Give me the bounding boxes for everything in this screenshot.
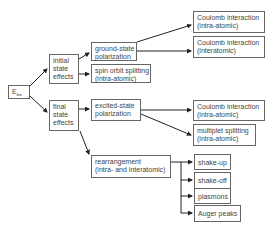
- plasmons-node: plasmons: [194, 188, 231, 204]
- excited-state-polarization-node: excited-state polarization: [91, 99, 141, 121]
- line: (interatomic): [197, 47, 261, 55]
- label: shake-up: [198, 159, 227, 167]
- line: polarization: [95, 110, 137, 118]
- coulomb-interatomic-node: Coulomb interaction (interatomic): [193, 36, 265, 58]
- coulomb-intra-atomic-node-2: Coulomb interaction (intra-atomic): [193, 100, 265, 121]
- line: final: [53, 103, 75, 111]
- line: effects: [53, 73, 75, 81]
- ebin-label: Ebin: [12, 88, 26, 99]
- line: ground-state: [95, 45, 133, 53]
- rearrangement-node: rearrangement (intra- and interatomic): [91, 155, 171, 178]
- diagram-canvas: Ebin initial state effects final state e…: [0, 0, 274, 225]
- initial-state-effects-node: initial state effects: [49, 54, 79, 84]
- line: multiplet splitting: [197, 127, 252, 135]
- line: polarization: [95, 53, 133, 61]
- multiplet-splitting-node: multiplet splitting (intra-atomic): [193, 124, 256, 146]
- line: (intra-atomic): [197, 22, 261, 30]
- line: Coulomb interaction: [197, 39, 261, 47]
- line: rearrangement: [95, 158, 167, 166]
- line: state: [53, 65, 75, 73]
- line: initial: [53, 57, 75, 65]
- line: spin orbit splitting: [95, 67, 147, 75]
- shake-off-node: shake-off: [194, 172, 231, 189]
- ebin-node: Ebin: [8, 85, 30, 99]
- label: shake-off: [198, 177, 227, 185]
- line: (intra-atomic): [197, 111, 261, 119]
- label: plasmons: [198, 193, 227, 201]
- auger-peaks-node: Auger peaks: [194, 205, 241, 222]
- ground-state-polarization-node: ground-state polarization: [91, 42, 137, 61]
- line: (intra-atomic): [95, 75, 147, 83]
- line: Coulomb interaction: [197, 103, 261, 111]
- line: Coulomb interaction: [197, 14, 261, 22]
- line: effects: [53, 119, 75, 127]
- shake-up-node: shake-up: [194, 154, 231, 170]
- spin-orbit-splitting-node: spin orbit splitting (intra-atomic): [91, 64, 151, 83]
- line: excited-state: [95, 102, 137, 110]
- line: (intra-atomic): [197, 135, 252, 143]
- line: (intra- and interatomic): [95, 166, 167, 174]
- coulomb-intra-atomic-node-1: Coulomb interaction (intra-atomic): [193, 11, 265, 33]
- label: Auger peaks: [198, 210, 237, 218]
- line: state: [53, 111, 75, 119]
- final-state-effects-node: final state effects: [49, 100, 79, 131]
